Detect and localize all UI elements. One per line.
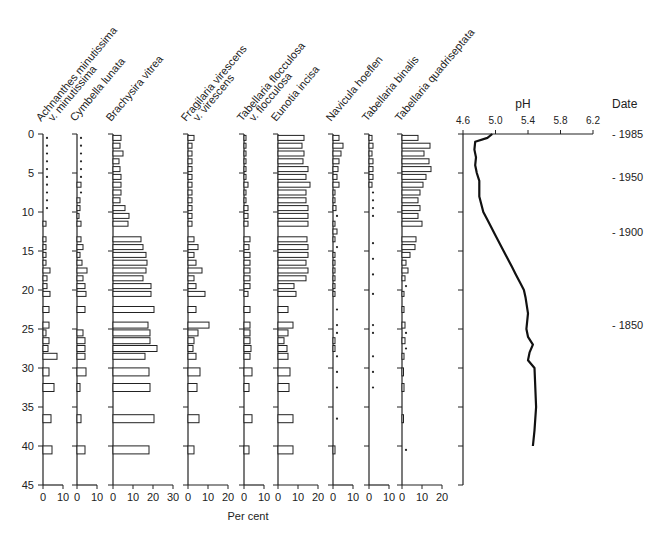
presence-dot [336, 332, 338, 334]
abundance-bar [402, 174, 426, 179]
abundance-bar [77, 368, 86, 376]
abundance-bar [188, 252, 194, 257]
abundance-bar [188, 338, 194, 344]
percent-tick-label: 30 [167, 491, 179, 503]
depth-tick-label: 10 [22, 206, 34, 218]
presence-dot [372, 355, 374, 357]
percent-tick-label: 0 [74, 491, 80, 503]
abundance-bar [188, 143, 192, 148]
abundance-bar [188, 276, 194, 281]
presence-dot [372, 371, 374, 373]
abundance-bar [113, 384, 150, 392]
abundance-bar [333, 252, 335, 257]
abundance-bar [402, 368, 404, 376]
abundance-bar [113, 415, 154, 423]
presence-dot [405, 332, 407, 334]
species-panel: 0102030Brachysira vitrea [103, 52, 179, 503]
abundance-bar [188, 151, 192, 156]
abundance-bar [278, 190, 306, 195]
ph-tick-label: 5.4 [521, 115, 535, 126]
abundance-bar [278, 237, 307, 242]
presence-dot [372, 207, 374, 209]
abundance-bar [278, 276, 306, 281]
presence-dot [46, 176, 48, 178]
abundance-bar [278, 182, 310, 187]
presence-dot [372, 332, 374, 334]
presence-dot [46, 168, 48, 170]
presence-dot [372, 199, 374, 201]
abundance-bar [77, 260, 82, 265]
abundance-bar [77, 415, 81, 423]
abundance-bar [402, 190, 420, 195]
abundance-bar [113, 206, 125, 211]
presence-dot [405, 449, 407, 451]
abundance-bar [43, 415, 51, 423]
abundance-bar [77, 291, 86, 296]
abundance-bar [113, 252, 146, 257]
abundance-bar [188, 174, 192, 179]
abundance-bar [188, 260, 196, 265]
abundance-bar [77, 221, 81, 226]
abundance-bar [77, 213, 79, 218]
abundance-bar [43, 338, 49, 344]
abundance-bar [369, 182, 372, 187]
ph-tick-label: 6.2 [586, 115, 600, 126]
abundance-bar [43, 346, 48, 352]
percent-tick-label: 20 [436, 491, 448, 503]
abundance-bar [278, 151, 304, 156]
abundance-bar [402, 143, 430, 148]
abundance-bar [188, 135, 194, 140]
abundance-bar [188, 284, 196, 289]
abundance-bar [188, 268, 202, 273]
percent-tick-label: 0 [110, 491, 116, 503]
abundance-bar [244, 322, 250, 328]
abundance-bar [113, 182, 121, 187]
presence-dot [46, 145, 48, 147]
species-panel: 01020Tabellaria quadriseptata [392, 25, 477, 503]
depth-tick-label: 25 [22, 323, 34, 335]
date-label: - 1850 [612, 319, 643, 331]
percent-tick-label: 20 [312, 491, 324, 503]
abundance-bar [43, 245, 46, 250]
abundance-bar [402, 268, 408, 273]
abundance-bar [113, 167, 120, 172]
abundance-bar [244, 190, 246, 195]
abundance-bar [188, 322, 209, 328]
x-axis-title: Per cent [228, 510, 269, 522]
abundance-bar [77, 198, 80, 203]
abundance-bar [188, 346, 193, 352]
presence-dot [336, 386, 338, 388]
date-title: Date [612, 97, 638, 111]
abundance-bar [402, 213, 418, 218]
abundance-bar [369, 143, 373, 148]
abundance-bar [188, 353, 196, 359]
abundance-bar [113, 159, 119, 164]
abundance-bar [278, 252, 308, 257]
presence-dot [336, 215, 338, 217]
abundance-bar [402, 322, 405, 328]
abundance-bar [244, 330, 250, 336]
abundance-bar [188, 330, 198, 336]
abundance-bar [244, 167, 246, 172]
percent-tick-label: 10 [202, 491, 214, 503]
abundance-bar [43, 446, 52, 454]
ph-tick-label: 4.6 [456, 115, 470, 126]
abundance-bar [77, 307, 85, 313]
abundance-bar [278, 245, 308, 250]
presence-dot [372, 191, 374, 193]
abundance-bar [113, 368, 149, 376]
abundance-bar [188, 384, 197, 392]
presence-dot [80, 176, 82, 178]
abundance-bar [402, 159, 429, 164]
presence-dot [336, 246, 338, 248]
presence-dot [46, 184, 48, 186]
percent-tick-label: 0 [185, 491, 191, 503]
abundance-bar [244, 384, 249, 392]
abundance-bar [402, 276, 405, 281]
percent-tick-label: 0 [399, 491, 405, 503]
ph-curve [474, 134, 536, 446]
abundance-bar [333, 237, 335, 242]
abundance-bar [77, 353, 85, 359]
abundance-bar [77, 245, 83, 250]
abundance-bar [244, 338, 250, 344]
